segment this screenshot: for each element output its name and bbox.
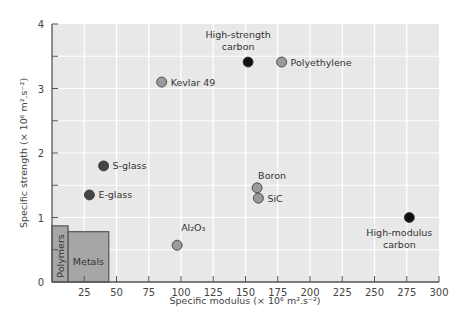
point-label: High-modulus: [366, 227, 432, 238]
point-label: carbon: [222, 41, 255, 52]
y-tick-label: 2: [38, 148, 44, 159]
point-label: SiC: [267, 193, 283, 204]
y-tick-label: 1: [38, 213, 44, 224]
y-tick-label: 3: [38, 84, 44, 95]
x-tick-label: 250: [365, 287, 384, 298]
x-tick-label: 25: [78, 287, 91, 298]
point-label: High-strength: [205, 29, 270, 40]
material-regions: PolymersMetals: [52, 226, 109, 282]
point-label: Kevlar 49: [171, 77, 216, 88]
region-label: Metals: [73, 256, 104, 267]
point-label: Al₂O₃: [181, 222, 205, 233]
x-tick-label: 300: [429, 287, 448, 298]
scatter-chart: PolymersMetals 2550751001251501752002252…: [0, 0, 471, 325]
point-label: carbon: [383, 239, 416, 250]
point-s-glass: S-glass: [99, 160, 147, 171]
point-label: E-glass: [98, 189, 132, 200]
y-tick-label: 0: [38, 277, 44, 288]
region-metals: Metals: [68, 232, 109, 282]
y-tick-label: 4: [38, 19, 44, 30]
x-tick-label: 275: [397, 287, 416, 298]
point-label: Boron: [258, 170, 286, 181]
region-polymers: Polymers: [52, 226, 68, 282]
x-tick-label: 75: [142, 287, 155, 298]
region-label: Polymers: [55, 234, 66, 277]
x-tick-label: 225: [333, 287, 352, 298]
x-tick-label: 50: [110, 287, 123, 298]
y-axis-title: Specific strength (× 10⁶ m².s⁻²): [18, 78, 29, 228]
point-label: Polyethylene: [291, 57, 352, 68]
x-axis-title: Specific modulus (× 10⁶ m².s⁻²): [170, 295, 321, 306]
point-label: S-glass: [113, 160, 147, 171]
point-sic: SiC: [253, 193, 283, 204]
point-e-glass: E-glass: [84, 189, 132, 200]
